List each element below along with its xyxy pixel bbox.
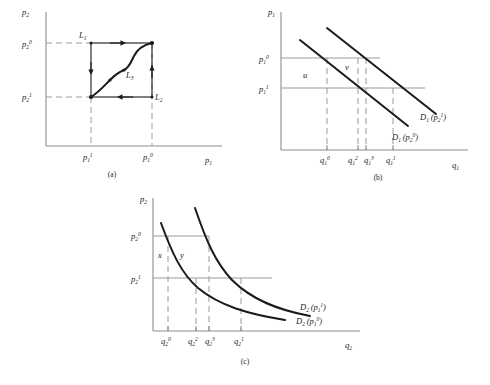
panel-a: p2 p1 p20 p21 p11 p10 [21, 7, 222, 179]
panel-a-path-dot-1 [108, 78, 111, 81]
figure-root: p2 p1 p20 p21 p11 p10 [0, 0, 490, 385]
panel-c-y-axis-label: p2 [139, 194, 147, 205]
panel-b-x-tick-q1-1: q11 [386, 155, 396, 167]
panel-b-curve-label-D1-p2-1: D1 (p21) [419, 112, 446, 124]
panel-a-x-axis-label: p1 [204, 155, 212, 166]
panel-b-area-label-v: v [345, 62, 349, 72]
panel-b-x-tick-q1-3: q13 [364, 155, 374, 167]
panel-a-x-tick-p1-1: p11 [82, 152, 93, 164]
panel-a-y-tick-p2-0: p20 [21, 39, 32, 51]
panel-a-corner-lower-right [151, 96, 154, 99]
panel-b-y-tick-p1-0: p10 [258, 54, 269, 66]
panel-c-y-tick-p2-0: p20 [130, 231, 141, 243]
panel-a-label-L1: L1 [78, 30, 87, 41]
panel-b-y-tick-p1-1: p11 [258, 84, 269, 96]
panel-a-y-tick-p2-1: p21 [21, 92, 32, 104]
panel-c-curve-D2-p1-0 [161, 223, 285, 320]
panel-c-y-tick-p2-1: p21 [130, 274, 141, 286]
panel-a-label-L2: L2 [154, 92, 163, 103]
panel-c-curve-label-D2-p1-0: D2 (p10) [295, 316, 322, 328]
panel-b-curve-D1-p2-1 [327, 28, 436, 114]
panel-b-x-tick-q1-0: q10 [320, 155, 330, 167]
panel-c-x-tick-q2-3: q23 [205, 336, 215, 348]
panel-b-x-tick-q1-2: q12 [348, 155, 358, 167]
panel-b: p1 q1 p10 p11 D1 (p21) D1 (p20) u v [258, 7, 468, 182]
panel-c-x-tick-q2-1: q21 [234, 336, 244, 348]
panel-b-x-axis-label: q1 [452, 160, 459, 171]
panel-c-curve-label-D2-p1-1: D2 (p11) [299, 302, 326, 314]
panel-b-area-label-u: u [303, 70, 307, 80]
panel-c-x-axis-label: q2 [345, 340, 352, 351]
panel-a-corner-upper-left [90, 42, 93, 45]
panel-c: p2 q2 p20 p21 D2 (p11) D2 (p10) x y [130, 194, 360, 366]
panel-c-x-tick-q2-2: q22 [188, 336, 198, 348]
panel-c-curve-D2-p1-1 [195, 208, 310, 316]
panel-c-x-tick-q2-0: q20 [161, 336, 171, 348]
panel-a-y-axis-label: p2 [21, 7, 29, 18]
panel-c-area-label-x: x [157, 250, 162, 260]
panel-b-caption: (b) [374, 173, 383, 182]
panel-a-path-L3 [91, 43, 152, 97]
panel-c-caption: (c) [241, 357, 250, 366]
panel-b-y-axis-label: p1 [267, 7, 275, 18]
panel-a-label-L3: L3 [125, 70, 134, 81]
panel-a-caption: (a) [108, 170, 117, 179]
panel-a-x-tick-p1-0: p10 [142, 152, 153, 164]
panel-c-x-tickmarks [168, 326, 241, 331]
panel-b-curve-D1-p2-0 [300, 40, 408, 126]
panel-b-x-tickmarks [327, 145, 393, 150]
panel-c-area-label-y: y [179, 250, 184, 260]
panel-b-curve-label-D1-p2-0: D1 (p20) [391, 132, 418, 144]
